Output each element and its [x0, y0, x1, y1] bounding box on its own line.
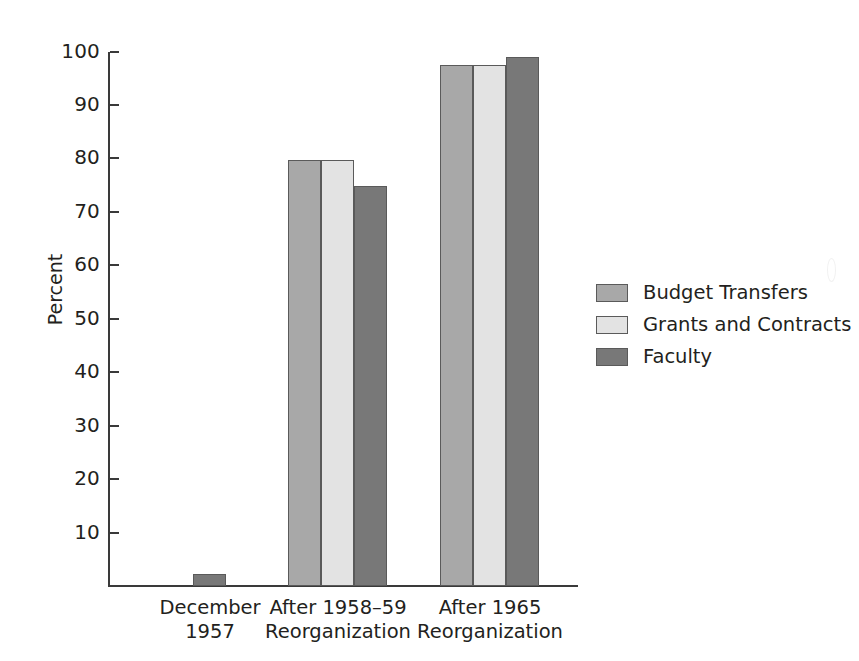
bar [473, 65, 506, 586]
bar [440, 65, 473, 586]
y-axis-tick-label-text: 40 [40, 361, 100, 381]
bar-chart: Percent 100908070605040302010 December19… [0, 0, 859, 661]
y-axis-tick-label: 30 [34, 415, 100, 435]
bar [321, 160, 354, 586]
x-axis-group-label-line1: After 1965 [380, 596, 600, 620]
y-axis-tick-mark [110, 371, 119, 373]
y-axis-tick-label: 40 [34, 361, 100, 381]
y-axis-tick-label-text: 90 [40, 94, 100, 114]
y-axis-tick-label-text: 70 [40, 201, 100, 221]
bar [193, 574, 226, 586]
bar [506, 57, 539, 586]
y-axis-tick-label-text: 60 [40, 254, 100, 274]
y-axis-tick-mark [110, 264, 119, 266]
legend-label: Faculty [643, 346, 712, 368]
y-axis-tick-label-text: 50 [40, 308, 100, 328]
y-axis-tick-label-text: 80 [40, 147, 100, 167]
bar [354, 186, 387, 586]
y-axis-tick-label-text: 10 [40, 522, 100, 542]
legend-label: Grants and Contracts [643, 314, 851, 336]
y-axis-title: Percent [46, 230, 65, 350]
y-axis-tick-label-text: 20 [40, 468, 100, 488]
y-axis-tick-label: 80 [34, 147, 100, 167]
legend-swatch [596, 284, 628, 302]
y-axis-tick-mark [110, 51, 119, 53]
y-axis-tick-label: 10 [34, 522, 100, 542]
legend-label: Budget Transfers [643, 282, 808, 304]
y-axis-tick-mark [110, 318, 119, 320]
y-axis-tick-mark [110, 478, 119, 480]
y-axis-tick-mark [110, 157, 119, 159]
x-axis-group-label-line2: Reorganization [380, 620, 600, 644]
y-axis-tick-mark [110, 532, 119, 534]
y-axis-tick-label-text: 100 [40, 41, 100, 61]
y-axis-tick-label: 20 [34, 468, 100, 488]
bar [288, 160, 321, 586]
y-axis-tick-label: 50 [34, 308, 100, 328]
y-axis-tick-label: 90 [34, 94, 100, 114]
legend-swatch [596, 316, 628, 334]
y-axis-tick-mark [110, 425, 119, 427]
y-axis-tick-label: 60 [34, 254, 100, 274]
y-axis-tick-mark [110, 104, 119, 106]
y-axis-tick-label: 100 [34, 41, 100, 61]
scan-artifact [827, 258, 836, 282]
legend-swatch [596, 348, 628, 366]
y-axis-tick-label-text: 30 [40, 415, 100, 435]
x-axis-group-label: After 1965Reorganization [380, 596, 600, 644]
y-axis-tick-label: 70 [34, 201, 100, 221]
y-axis-tick-mark [110, 211, 119, 213]
